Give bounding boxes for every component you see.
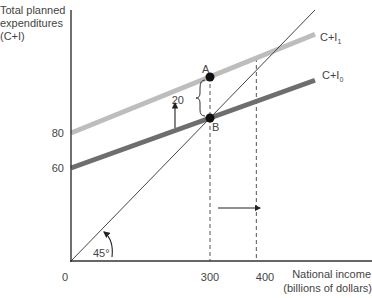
series-label-c-i1: C+I1 xyxy=(320,31,341,45)
angle-label: 45° xyxy=(93,247,110,259)
x-tick-label-400: 400 xyxy=(256,271,274,283)
y-axis-label-line2: expenditures xyxy=(0,17,63,29)
y-tick-label-80: 80 xyxy=(52,127,64,139)
series-label-c-i0: C+I0 xyxy=(322,69,343,83)
point-label-a: A xyxy=(202,63,210,75)
origin-label: 0 xyxy=(62,271,68,283)
point-label-b: B xyxy=(212,121,219,133)
y-tick-label-60: 60 xyxy=(52,162,64,174)
y-axis-label-line3: (C+I) xyxy=(0,30,25,42)
y-axis-label-line1: Total planned xyxy=(0,4,65,16)
x-axis-label-line1: National income xyxy=(292,268,371,280)
x-tick-label-300: 300 xyxy=(201,271,219,283)
x-axis-label-line2: (billions of dollars) xyxy=(283,282,372,294)
gap-label: 20 xyxy=(172,94,184,106)
series-line-c-i1 xyxy=(71,34,315,133)
series-line-c-i0 xyxy=(71,80,315,168)
gap-brace xyxy=(196,80,205,116)
chart: Total planned expenditures (C+I) Nationa… xyxy=(0,0,372,298)
series-line-45-degree xyxy=(71,10,315,261)
